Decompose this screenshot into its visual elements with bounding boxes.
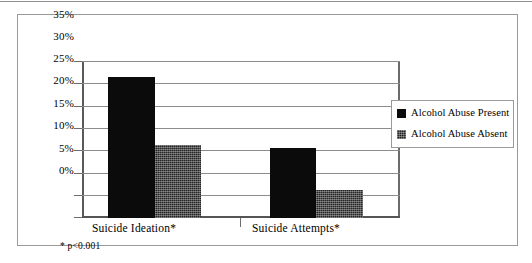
y-tickmark-30 (74, 83, 82, 84)
legend-swatch-solid-icon (397, 109, 406, 118)
gridline-35 (82, 61, 400, 62)
y-tick-label-35: 35% (28, 9, 74, 20)
legend-item-absent: Alcohol Abuse Absent (397, 127, 508, 141)
y-tick-label-20: 20% (28, 75, 74, 86)
y-tick-label-25: 25% (28, 53, 74, 64)
y-tickmark-35 (74, 61, 82, 62)
footnote-significance: * p<0.001 (60, 241, 100, 252)
x-category-label-ideation: Suicide Ideation* (54, 222, 214, 235)
legend-label-absent: Alcohol Abuse Absent (411, 128, 508, 140)
y-tickmark-5 (74, 195, 82, 196)
chart-page: 35% 30% 25% 20% 15% 10% 5% 0% (0, 0, 532, 263)
y-tick-label-15: 15% (28, 98, 74, 109)
legend-swatch-textured-icon (397, 130, 406, 139)
y-tick-label-10: 10% (28, 120, 74, 131)
y-tickmark-25 (74, 106, 82, 107)
plot-area (82, 61, 400, 218)
y-tickmark-10 (74, 173, 82, 174)
y-tickmark-20 (74, 128, 82, 129)
y-tick-label-30: 30% (28, 31, 74, 42)
x-category-label-attempts: Suicide Attempts* (216, 222, 376, 235)
y-tick-label-5: 5% (28, 143, 74, 154)
y-tickmark-15 (74, 150, 82, 151)
bar-attempts-present (270, 148, 316, 218)
y-axis-labels: 35% 30% 25% 20% 15% 10% 5% 0% (26, 15, 74, 172)
page-top-rule (0, 1, 532, 2)
y-tickmark-0 (74, 217, 82, 218)
y-tick-label-0: 0% (28, 165, 74, 176)
legend-label-present: Alcohol Abuse Present (411, 107, 509, 119)
bar-attempts-absent (316, 190, 363, 218)
bar-ideation-absent (155, 145, 201, 218)
bar-ideation-present (108, 77, 155, 218)
chart-legend: Alcohol Abuse Present Alcohol Abuse Abse… (391, 100, 514, 148)
legend-item-present: Alcohol Abuse Present (397, 106, 509, 120)
